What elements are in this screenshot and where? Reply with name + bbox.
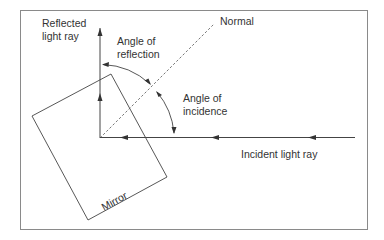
angle-incidence-label-line2: incidence (183, 105, 227, 118)
angle-reflection-label: Angle of reflection (117, 35, 160, 61)
reflected-ray-label: Reflected light ray (42, 17, 86, 43)
incident-ray-arrow-2 (211, 135, 219, 140)
reflected-ray-label-line2: light ray (42, 30, 86, 43)
angle-incidence-label-line1: Angle of (183, 92, 227, 105)
angle-incidence-arrow-bottom (172, 127, 177, 134)
angle-incidence-arrow-top (156, 91, 162, 97)
angle-reflection-arrow-right (145, 79, 152, 86)
reflected-ray-label-line1: Reflected (42, 17, 86, 30)
angle-reflection-label-line1: Angle of (117, 35, 160, 48)
incident-ray-arrow-3 (120, 135, 128, 140)
angle-reflection-label-line2: reflection (117, 48, 160, 61)
reflected-ray-arrow-mid (98, 93, 103, 101)
incident-ray-arrow-1 (308, 135, 316, 140)
reflection-diagram: Mirror Reflected light ray Angle of refl… (0, 0, 384, 240)
incident-ray-label: Incident light ray (241, 148, 317, 161)
angle-reflection-arrow-left (102, 62, 109, 67)
normal-label: Normal (220, 15, 254, 28)
angle-incidence-arc (157, 92, 174, 133)
diagram-frame (21, 11, 368, 230)
reflected-ray-arrow-top (98, 28, 103, 36)
mirror-label: Mirror (99, 189, 129, 213)
angle-incidence-label: Angle of incidence (183, 92, 227, 118)
